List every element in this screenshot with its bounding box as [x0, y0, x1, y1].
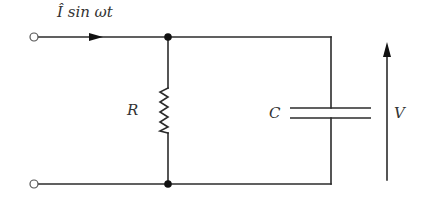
circuit-canvas: [0, 0, 422, 199]
resistor-symbol: [160, 37, 168, 184]
current-label: Î sin ωt: [57, 5, 113, 20]
capacitor-symbol: [290, 37, 371, 184]
capacitor-label: C: [269, 106, 280, 121]
voltage-label: V: [394, 106, 405, 121]
junction-top: [164, 33, 172, 41]
junction-bottom: [164, 180, 172, 188]
terminal-bottom: [30, 180, 38, 188]
resistor-label: R: [127, 103, 138, 118]
voltage-arrow-icon: [383, 42, 391, 180]
terminal-top: [30, 33, 38, 41]
current-arrow-icon: [89, 33, 103, 41]
